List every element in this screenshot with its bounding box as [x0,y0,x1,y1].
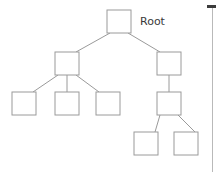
tree-graphics [0,0,223,172]
vertical-scrollbar-thumb[interactable] [207,5,216,8]
tree-node-n-l1[interactable] [12,92,36,115]
tree-node-n-r[interactable] [157,52,181,75]
tree-edge [76,75,99,92]
tree-node-n-l[interactable] [55,52,79,75]
tree-node-n-r1b[interactable] [174,132,198,155]
tree-node-label-root: Root [140,16,165,27]
tree-node-n-l3[interactable] [96,92,120,115]
tree-edge [128,33,160,52]
tree-node-n-r1[interactable] [157,92,181,115]
tree-node-root[interactable] [107,10,131,33]
tree-diagram-canvas: Root [0,0,223,172]
tree-edge [178,115,195,132]
tree-edge [76,33,110,52]
tree-edge [33,75,58,92]
tree-node-n-l2[interactable] [55,92,79,115]
tree-edge [155,115,160,132]
tree-node-n-r1a[interactable] [134,132,158,155]
nodes-group [12,10,198,155]
vertical-scrollbar-track[interactable] [212,5,213,172]
edges-group [33,33,195,132]
